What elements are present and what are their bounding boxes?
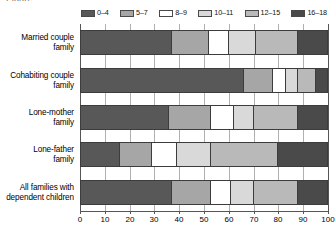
bar-segment bbox=[80, 180, 172, 205]
bar-row bbox=[80, 180, 328, 205]
category-label-line: Lone-father bbox=[0, 145, 74, 155]
x-axis-tick-label: 90 bbox=[299, 215, 308, 225]
chart-legend: 0–45–78–910–1112–1516–18 bbox=[80, 5, 328, 21]
bar-segment bbox=[278, 142, 328, 167]
bar-segment bbox=[120, 142, 152, 167]
legend-item: 5–7 bbox=[120, 9, 148, 17]
legend-swatch-icon bbox=[81, 10, 95, 17]
x-axis-tick-label: 50 bbox=[200, 215, 209, 225]
x-axis-tick bbox=[154, 211, 155, 214]
legend-swatch-icon bbox=[120, 10, 134, 17]
category-label-line: All families with bbox=[0, 183, 74, 193]
legend-item: 8–9 bbox=[159, 9, 187, 17]
bar-segment bbox=[254, 180, 299, 205]
x-axis-tick bbox=[80, 211, 81, 214]
bar-segment bbox=[273, 68, 285, 93]
x-axis-tick bbox=[204, 211, 205, 214]
bar-segment bbox=[298, 105, 328, 130]
bar-segment bbox=[169, 105, 211, 130]
legend-swatch-icon bbox=[198, 10, 212, 17]
x-axis-tick-label: 100 bbox=[321, 215, 334, 225]
legend-item: 0–4 bbox=[81, 9, 109, 17]
bar-segment bbox=[298, 180, 328, 205]
legend-item-label: 16–18 bbox=[307, 9, 327, 17]
category-label: Lone-fatherfamily bbox=[0, 145, 74, 165]
legend-item-label: 0–4 bbox=[97, 9, 109, 17]
bar-segment bbox=[254, 105, 299, 130]
x-axis-tick-label: 10 bbox=[101, 215, 110, 225]
x-axis-tick-label: 40 bbox=[175, 215, 184, 225]
bar-segment bbox=[80, 105, 169, 130]
legend-swatch-icon bbox=[245, 10, 259, 17]
category-label-line: Lone-mother bbox=[0, 108, 74, 118]
legend-item-label: 5–7 bbox=[136, 9, 148, 17]
bar-segment bbox=[211, 180, 231, 205]
category-axis-labels: Married couplefamilyCohabiting couplefam… bbox=[0, 24, 78, 211]
legend-item: 16–18 bbox=[291, 9, 327, 17]
category-label-line: family bbox=[0, 81, 74, 91]
category-label-line: family bbox=[0, 43, 74, 53]
x-axis-tick bbox=[328, 211, 329, 214]
legend-item: 10–11 bbox=[198, 9, 233, 17]
bar-segment bbox=[234, 105, 254, 130]
category-label-line: Cohabiting couple bbox=[0, 71, 74, 81]
x-axis-tick bbox=[229, 211, 230, 214]
bar-segment bbox=[286, 68, 298, 93]
category-label-line: Married couple bbox=[0, 33, 74, 43]
category-label-line: family bbox=[0, 155, 74, 165]
clipped-header-text: Figure bbox=[6, 0, 33, 1]
bar-row bbox=[80, 30, 328, 55]
bar-segment bbox=[80, 142, 120, 167]
bar-segment bbox=[80, 68, 244, 93]
x-axis-tick-label: 20 bbox=[126, 215, 135, 225]
gridline bbox=[328, 24, 329, 211]
bar-row bbox=[80, 142, 328, 167]
bar-segment bbox=[172, 180, 212, 205]
legend-item-label: 8–9 bbox=[175, 9, 187, 17]
legend-item-label: 10–11 bbox=[214, 9, 233, 17]
x-axis-tick bbox=[254, 211, 255, 214]
bar-segment bbox=[211, 142, 278, 167]
bars-layer bbox=[80, 24, 328, 211]
legend-swatch-icon bbox=[291, 10, 305, 17]
bar-segment bbox=[316, 68, 328, 93]
bar-segment bbox=[231, 180, 253, 205]
x-axis-tick bbox=[278, 211, 279, 214]
bar-segment bbox=[152, 142, 177, 167]
x-axis-tick-label: 0 bbox=[78, 215, 82, 225]
category-label: Married couplefamily bbox=[0, 33, 74, 53]
bar-segment bbox=[298, 68, 315, 93]
bar-segment bbox=[172, 30, 209, 55]
x-axis-tick bbox=[130, 211, 131, 214]
x-axis-tick-label: 60 bbox=[225, 215, 234, 225]
category-label: Lone-motherfamily bbox=[0, 108, 74, 128]
plot-area bbox=[80, 24, 328, 211]
x-axis-tick bbox=[303, 211, 304, 214]
x-axis-tick bbox=[179, 211, 180, 214]
x-axis-tick bbox=[105, 211, 106, 214]
bar-row bbox=[80, 68, 328, 93]
bar-segment bbox=[209, 30, 229, 55]
x-axis-tick-label: 70 bbox=[250, 215, 259, 225]
bar-segment bbox=[256, 30, 298, 55]
category-label-line: family bbox=[0, 118, 74, 128]
category-label: Cohabiting couplefamily bbox=[0, 71, 74, 91]
bar-segment bbox=[244, 68, 274, 93]
legend-item-label: 12–15 bbox=[261, 9, 281, 17]
bar-segment bbox=[229, 30, 256, 55]
x-axis-tick-label: 80 bbox=[274, 215, 283, 225]
legend-swatch-icon bbox=[159, 10, 173, 17]
bar-segment bbox=[211, 105, 233, 130]
category-label: All families withdependent children bbox=[0, 183, 74, 203]
bar-segment bbox=[298, 30, 328, 55]
category-label-line: dependent children bbox=[0, 193, 74, 203]
x-axis-tick-labels: 0102030405060708090100 bbox=[80, 215, 328, 227]
bar-segment bbox=[177, 142, 212, 167]
bar-row bbox=[80, 105, 328, 130]
bar-segment bbox=[80, 30, 172, 55]
legend-item: 12–15 bbox=[245, 9, 281, 17]
x-axis-tick-label: 30 bbox=[150, 215, 159, 225]
